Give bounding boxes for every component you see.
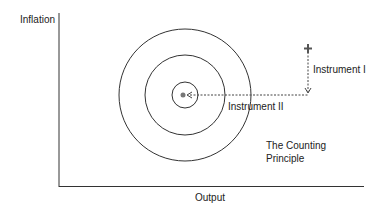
x-axis-label: Output — [195, 192, 225, 204]
start-point-cross-icon — [304, 44, 312, 53]
counting-principle-diagram — [0, 0, 382, 214]
principle-label-line2: Principle — [266, 153, 304, 165]
instrument-1-label: Instrument I — [313, 64, 366, 76]
target-point — [181, 93, 186, 98]
instrument-1-arrow — [305, 52, 311, 93]
instrument-2-label: Instrument II — [228, 101, 284, 113]
y-axis-label: Inflation — [20, 14, 55, 26]
principle-label-line1: The Counting — [266, 140, 326, 152]
instrument-2-arrow — [187, 92, 308, 98]
